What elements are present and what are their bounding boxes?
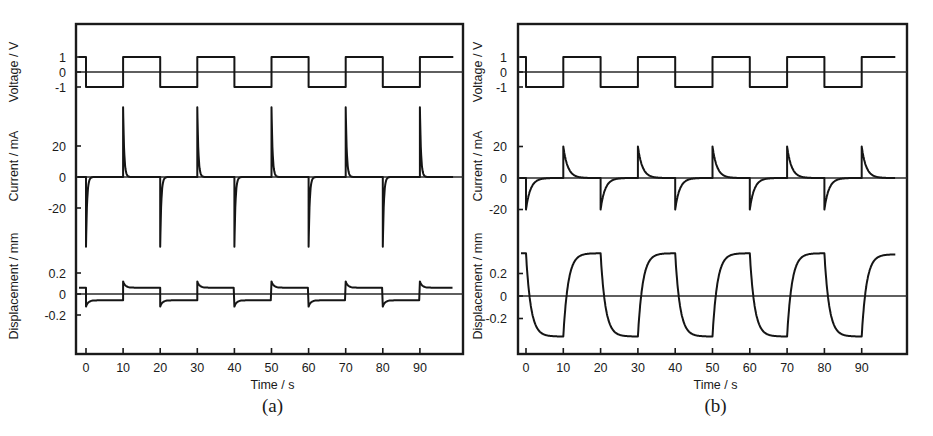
y-tick-label: -20 [48,202,66,216]
y-tick-label: -0.2 [44,309,66,323]
x-tick-label: 0 [523,361,530,375]
y-tick-label: 0.2 [49,267,66,281]
y-tick-label: 0.2 [490,267,507,281]
x-tick-label: 70 [339,361,353,375]
x-tick-label: 30 [190,361,204,375]
y-tick-label: -1 [496,81,507,95]
x-tick-label: 60 [302,361,316,375]
y-axis-label: Current / mA [7,130,21,202]
y-tick-label: 20 [493,140,507,154]
figure: 010203040506070809010-1200-200.20-0.2Vol… [0,0,933,436]
x-tick-label: 80 [376,361,390,375]
x-tick-label: 30 [631,361,645,375]
y-tick-label: 1 [59,51,66,65]
y-tick-label: -1 [55,81,66,95]
x-tick-label: 40 [227,361,241,375]
y-tick-label: 0 [59,171,66,185]
panel-caption: (a) [262,395,283,417]
y-axis-label: Voltage / V [471,41,485,102]
y-axis-label: Current / mA [471,130,485,202]
x-tick-label: 20 [153,361,167,375]
x-tick-label: 40 [668,361,682,375]
x-tick-label: 50 [706,361,720,375]
displacement-trace [521,253,895,336]
y-tick-label: 0 [500,66,507,80]
x-tick-label: 10 [116,361,130,375]
y-axis-label: Voltage / V [7,41,21,102]
x-tick-label: 60 [743,361,757,375]
panel-caption: (b) [704,395,726,417]
y-tick-label: 20 [52,140,66,154]
y-tick-label: -20 [489,203,507,217]
x-tick-label: 0 [83,361,90,375]
y-axis-label: Displacement / mm [471,233,485,340]
x-tick-label: 20 [594,361,608,375]
current-trace [78,107,453,247]
plot-frame [76,24,463,354]
y-tick-label: 0 [500,172,507,186]
x-tick-label: 70 [780,361,794,375]
x-tick-label: 90 [855,361,869,375]
y-tick-label: 1 [500,51,507,65]
x-tick-label: 80 [817,361,831,375]
panel-b: 010203040506070809010-1200-200.20-0.2Vol… [471,24,907,417]
y-axis-label: Displacement / mm [7,233,21,340]
x-tick-label: 50 [265,361,279,375]
panel-a: 010203040506070809010-1200-200.20-0.2Vol… [7,24,463,417]
y-tick-label: -0.2 [485,312,507,326]
x-tick-label: 10 [556,361,570,375]
y-tick-label: 0 [500,290,507,304]
x-axis-label: Time / s [251,378,295,392]
x-tick-label: 90 [413,361,427,375]
x-axis-label: Time / s [694,378,738,392]
y-tick-label: 0 [59,288,66,302]
y-tick-label: 0 [59,66,66,80]
